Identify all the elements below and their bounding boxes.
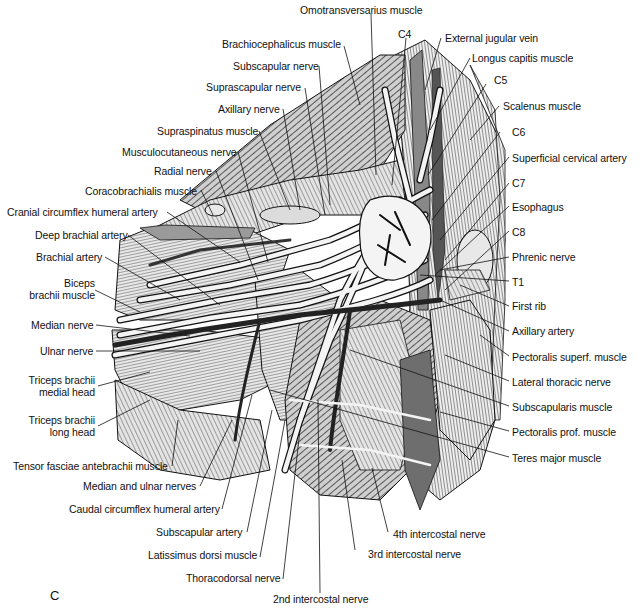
label-pectoralis-superf-muscle: Pectoralis superf. muscle <box>512 351 627 363</box>
label-subscapularis-muscle: Subscapularis muscle <box>512 401 612 413</box>
label-musculocutaneous-nerve: Musculocutaneous nerve <box>122 146 237 158</box>
label-axillary-nerve: Axillary nerve <box>218 103 280 115</box>
label-subscapular-artery: Subscapular artery <box>156 526 242 538</box>
label-brachial-artery: Brachial artery <box>36 251 102 263</box>
label-suprascapular-nerve: Suprascapular nerve <box>206 81 301 93</box>
label-phrenic-nerve: Phrenic nerve <box>512 251 575 263</box>
label-c6: C6 <box>512 126 525 138</box>
label-supraspinatus-muscle: Supraspinatus muscle <box>157 125 258 137</box>
label-c7: C7 <box>512 177 525 189</box>
label-ulnar-nerve: Ulnar nerve <box>40 345 93 357</box>
label-radial-nerve: Radial nerve <box>154 165 212 177</box>
label-triceps-medial-line1: Triceps brachii <box>10 374 95 386</box>
label-caudal-circumflex-humeral-artery: Caudal circumflex humeral artery <box>69 503 220 515</box>
label-2nd-intercostal-nerve: 2nd intercostal nerve <box>273 593 368 605</box>
label-axillary-artery: Axillary artery <box>512 325 574 337</box>
label-3rd-intercostal-nerve: 3rd intercostal nerve <box>368 548 461 560</box>
label-first-rib: First rib <box>512 300 546 312</box>
label-triceps-long-line2: long head <box>10 426 95 438</box>
label-external-jugular-vein: External jugular vein <box>445 32 538 44</box>
label-cranial-circumflex-humeral-artery: Cranial circumflex humeral artery <box>7 206 158 218</box>
label-teres-major-muscle: Teres major muscle <box>512 452 601 464</box>
label-esophagus: Esophagus <box>512 201 564 213</box>
label-triceps-medial-line2: medial head <box>10 386 95 398</box>
panel-letter: C <box>50 588 59 603</box>
label-pectoralis-prof-muscle: Pectoralis prof. muscle <box>512 426 616 438</box>
label-scalenus-muscle: Scalenus muscle <box>503 100 581 112</box>
label-deep-brachial-artery: Deep brachial artery <box>35 229 128 241</box>
label-c4: C4 <box>398 28 411 40</box>
label-4th-intercostal-nerve: 4th intercostal nerve <box>393 528 485 540</box>
label-tensor-fasciae-antebrachii-muscle: Tensor fasciae antebrachii muscle <box>13 460 168 472</box>
label-longus-capitis-muscle: Longus capitis muscle <box>472 52 573 64</box>
label-coracobrachialis-muscle: Coracobrachialis muscle <box>85 185 197 197</box>
label-c5: C5 <box>494 74 507 86</box>
label-thoracodorsal-nerve: Thoracodorsal nerve <box>186 572 280 584</box>
label-c8: C8 <box>512 226 525 238</box>
label-latissimus-dorsi-muscle: Latissimus dorsi muscle <box>148 549 257 561</box>
label-biceps-line1: Biceps <box>40 277 95 289</box>
label-superficial-cervical-artery: Superficial cervical artery <box>512 152 627 164</box>
label-median-and-ulnar-nerves: Median and ulnar nerves <box>83 480 196 492</box>
label-triceps-long-line1: Triceps brachii <box>10 414 95 426</box>
label-biceps-line2: brachii muscle <box>15 289 95 301</box>
label-subscapular-nerve: Subscapular nerve <box>233 60 319 72</box>
label-t1: T1 <box>512 276 524 288</box>
label-lateral-thoracic-nerve: Lateral thoracic nerve <box>512 376 611 388</box>
label-omotransversarius-muscle: Omotransversarius muscle <box>300 4 422 16</box>
label-median-nerve: Median nerve <box>31 319 93 331</box>
label-brachiocephalicus-muscle: Brachiocephalicus muscle <box>222 38 341 50</box>
